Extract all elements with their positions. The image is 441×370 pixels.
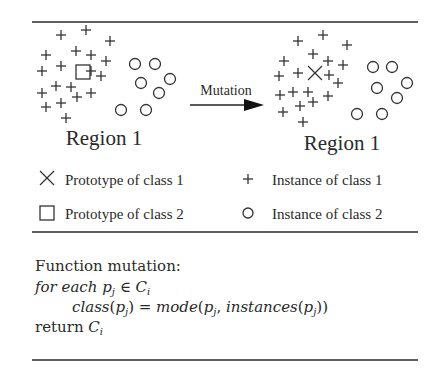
plus-icon bbox=[72, 92, 82, 102]
circle-icon bbox=[130, 59, 141, 70]
plus-icon bbox=[41, 50, 51, 60]
right-class2-instances bbox=[352, 62, 413, 120]
plus-icon bbox=[274, 71, 284, 81]
plus-icon bbox=[71, 46, 81, 56]
left-class2-prototype-icon bbox=[76, 65, 90, 79]
circle-icon bbox=[141, 105, 152, 116]
plus-icon bbox=[293, 36, 303, 46]
plus-icon bbox=[324, 70, 334, 80]
plus-icon bbox=[37, 88, 47, 98]
plus-icon bbox=[338, 60, 348, 70]
plus-icon bbox=[66, 82, 76, 92]
circle-icon bbox=[150, 59, 161, 70]
circle-icon bbox=[387, 62, 398, 73]
x-cross-icon bbox=[40, 171, 54, 185]
plus-icon bbox=[288, 87, 298, 97]
circle-icon bbox=[377, 109, 388, 120]
legend: Prototype of class 1 Instance of class 1… bbox=[40, 171, 382, 222]
plus-icon bbox=[56, 98, 66, 108]
plus-icon bbox=[298, 117, 308, 127]
plus-icon bbox=[51, 81, 61, 91]
plus-icon bbox=[243, 174, 253, 184]
legend-label-instance-class-1: Instance of class 1 bbox=[272, 172, 382, 188]
plus-icon bbox=[96, 71, 106, 81]
circle-icon bbox=[402, 78, 413, 89]
plus-icon bbox=[56, 61, 66, 71]
plus-icon bbox=[101, 56, 111, 66]
legend-label-instance-class-2: Instance of class 2 bbox=[272, 206, 382, 222]
circle-icon bbox=[368, 62, 379, 73]
plus-icon bbox=[279, 56, 289, 66]
plus-icon bbox=[333, 78, 343, 88]
square-icon bbox=[40, 206, 54, 220]
plus-icon bbox=[295, 101, 305, 111]
circle-icon bbox=[392, 93, 403, 104]
plus-icon bbox=[323, 91, 333, 101]
plus-icon bbox=[37, 66, 47, 76]
plus-icon bbox=[275, 90, 285, 100]
circle-icon bbox=[352, 109, 363, 120]
plus-icon bbox=[293, 68, 303, 78]
legend-label-prototype-class-2: Prototype of class 2 bbox=[65, 206, 184, 222]
circle-icon bbox=[243, 208, 253, 218]
plus-icon bbox=[86, 50, 96, 60]
plus-icon bbox=[81, 25, 91, 35]
square-icon bbox=[76, 65, 90, 79]
right-region-label: Region 1 bbox=[304, 131, 380, 155]
plus-icon bbox=[303, 87, 313, 97]
plus-icon bbox=[61, 113, 71, 123]
right-class1-prototype-icon bbox=[308, 66, 322, 80]
algorithm-assign-line: class(pj) = mode(pj, instances(pj)) bbox=[72, 298, 328, 317]
right-class1-instances bbox=[274, 30, 352, 127]
plus-icon bbox=[86, 88, 96, 98]
plus-icon bbox=[41, 102, 51, 112]
plus-icon bbox=[323, 56, 333, 66]
plus-icon bbox=[278, 107, 288, 117]
plus-icon bbox=[318, 30, 328, 40]
mutation-diagram: Region 1 Mutation Region 1 Prototype of … bbox=[0, 0, 441, 370]
plus-icon bbox=[56, 30, 66, 40]
algorithm-block: Function mutation: for each pj ∈ Ci clas… bbox=[34, 257, 328, 337]
left-class2-instances bbox=[116, 59, 176, 116]
legend-label-prototype-class-1: Prototype of class 1 bbox=[65, 172, 184, 188]
circle-icon bbox=[116, 105, 127, 116]
algorithm-return-line: return Ci bbox=[35, 318, 103, 337]
circle-icon bbox=[165, 74, 176, 85]
circle-icon bbox=[136, 78, 147, 89]
x-cross-icon bbox=[308, 66, 322, 80]
plus-icon bbox=[308, 49, 318, 59]
circle-icon bbox=[154, 88, 165, 99]
algorithm-title: Function mutation: bbox=[35, 257, 181, 275]
left-region-label: Region 1 bbox=[66, 126, 142, 150]
plus-icon bbox=[308, 97, 318, 107]
plus-icon bbox=[86, 66, 96, 76]
arrow-head-icon bbox=[244, 99, 264, 111]
plus-icon bbox=[105, 36, 115, 46]
algorithm-loop-line: for each pj ∈ Ci bbox=[34, 278, 150, 297]
circle-icon bbox=[372, 83, 383, 94]
arrow-label: Mutation bbox=[200, 83, 251, 98]
plus-icon bbox=[342, 40, 352, 50]
